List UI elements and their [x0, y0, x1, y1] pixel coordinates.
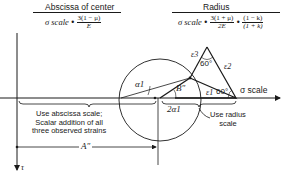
epsilon1-label: ε1 — [206, 89, 213, 97]
radius-leader — [199, 108, 210, 118]
a-double-prime-label: A″ — [79, 142, 92, 151]
abscissa-formula: σ scale • 3(1 − μ)E — [45, 15, 101, 30]
alpha1-label: α1 — [135, 80, 144, 89]
sigma-axis-label: σ scale — [240, 86, 267, 95]
b-double-prime-label: B″ — [176, 84, 185, 93]
epsilon2-label: ε2 — [224, 63, 231, 71]
use-radius-note: Use radius scale — [210, 111, 246, 128]
epsilon3-label: ε3 — [191, 51, 198, 59]
two-alpha1-label: 2α1 — [167, 105, 181, 114]
tau-axis-label: τ — [21, 164, 24, 172]
radius-to-b — [160, 78, 190, 98]
abscissa-note: Use abscissa scale; Scalar addition of a… — [32, 110, 106, 136]
abscissa-brace — [19, 101, 156, 107]
radius-title: Radius — [203, 3, 229, 12]
radius-formula: σ scale • 3(1 + μ)2E • (1 − k)(1 + k) — [178, 15, 264, 30]
mohr-circle — [119, 59, 201, 141]
angle-top-label: 60° — [200, 60, 212, 68]
angle-right-label: 60° — [216, 88, 228, 96]
abscissa-title: Abscissa of center — [45, 3, 114, 12]
